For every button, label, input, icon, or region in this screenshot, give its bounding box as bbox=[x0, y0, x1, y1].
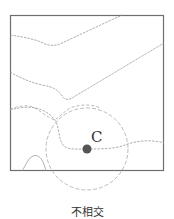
contour-diagram: C bbox=[0, 0, 174, 219]
upper-contour-line bbox=[10, 15, 122, 45]
middle-dashed-contour bbox=[10, 105, 100, 120]
lower-dashed-contour-through-C bbox=[10, 107, 164, 149]
second-contour-line bbox=[10, 43, 164, 99]
diagram-caption: 不相交 bbox=[0, 203, 174, 219]
point-c-label: C bbox=[91, 128, 102, 146]
bottom-left-hump bbox=[22, 156, 46, 171]
